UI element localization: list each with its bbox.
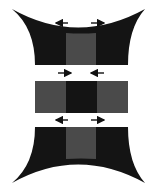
bottom-bar-center-band <box>66 127 96 159</box>
middle-bar-left <box>35 81 66 113</box>
bottom-bent-bar <box>12 127 145 183</box>
middle-bar-center <box>66 81 97 113</box>
middle-bar-right <box>97 81 128 113</box>
middle-straight-bar <box>35 81 128 113</box>
bending-diagram <box>0 0 157 192</box>
top-bar-center-band <box>66 33 96 65</box>
top-bent-bar <box>12 9 145 65</box>
